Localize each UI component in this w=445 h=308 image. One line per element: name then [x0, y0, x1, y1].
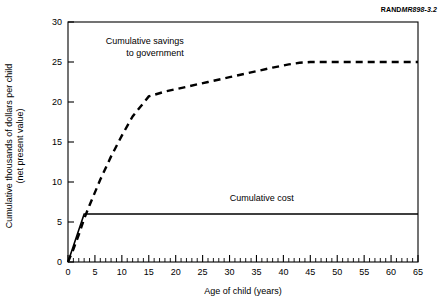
y-tick-label: 5 [57, 217, 62, 227]
y-tick-label: 20 [52, 97, 62, 107]
y-tick-label: 15 [52, 137, 62, 147]
series-line-savings [68, 62, 418, 262]
x-tick-label: 10 [117, 267, 127, 277]
plot-frame [68, 22, 418, 262]
x-tick-label: 35 [251, 267, 261, 277]
x-tick-label: 65 [413, 267, 423, 277]
cost-annotation-label: Cumulative cost [230, 193, 295, 203]
y-tick-label: 10 [52, 177, 62, 187]
x-tick-label: 30 [225, 267, 235, 277]
chart-plot: 05101520253005101520253035404550556065Cu… [0, 0, 445, 308]
y-tick-label: 30 [52, 17, 62, 27]
x-tick-label: 15 [144, 267, 154, 277]
y-tick-label: 0 [57, 257, 62, 267]
x-tick-label: 45 [305, 267, 315, 277]
y-tick-label: 25 [52, 57, 62, 67]
x-tick-label: 50 [332, 267, 342, 277]
series-line-cost [68, 214, 418, 262]
x-tick-label: 60 [386, 267, 396, 277]
figure-container: RANDMR898-3.2 Cumulative thousands of do… [0, 0, 445, 308]
x-tick-label: 0 [65, 267, 70, 277]
x-tick-label: 25 [198, 267, 208, 277]
x-tick-label: 5 [92, 267, 97, 277]
x-tick-label: 20 [171, 267, 181, 277]
savings-annotation-line1: Cumulative savings [106, 36, 185, 46]
x-tick-label: 40 [278, 267, 288, 277]
x-tick-label: 55 [359, 267, 369, 277]
savings-annotation-line2: to government [126, 48, 184, 58]
